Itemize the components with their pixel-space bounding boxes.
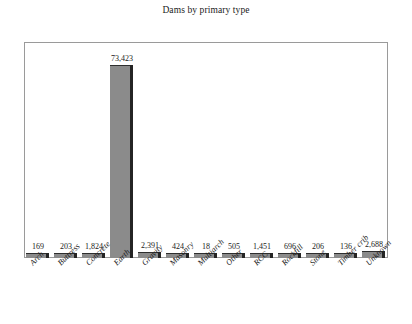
bar-side-face (130, 65, 133, 258)
bar-side-face (270, 253, 273, 258)
bar-front-face (110, 65, 130, 258)
chart-title: Dams by primary type (0, 5, 412, 15)
plot-area (24, 42, 388, 258)
bar-value-label: 73,423 (108, 54, 136, 63)
chart-container: Dams by primary type 169Arch203Buttress1… (0, 0, 412, 324)
bar-side-face (46, 253, 49, 258)
